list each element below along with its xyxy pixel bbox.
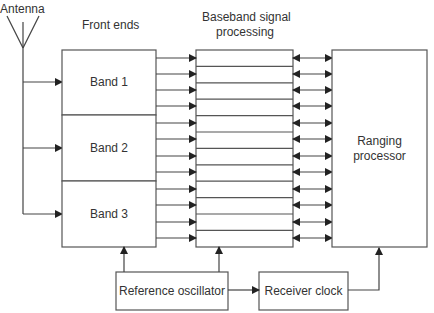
band-3-label: Band 3 xyxy=(62,181,156,247)
baseband-ranging-bidirectional-arrows xyxy=(293,58,332,238)
ranging-processor-label-line1: Ranging xyxy=(332,134,427,148)
band-1-label: Band 1 xyxy=(62,50,156,115)
frontend-to-baseband-arrows xyxy=(156,58,196,238)
antenna-feed-arrows xyxy=(23,82,62,214)
baseband-block xyxy=(196,50,293,247)
receiver-clock-label: Receiver clock xyxy=(259,272,348,310)
band-2-label: Band 2 xyxy=(62,115,156,181)
baseband-label-line1: Baseband signal xyxy=(202,10,291,24)
baseband-label-line2: processing xyxy=(216,25,274,39)
reference-oscillator-label: Reference oscillator xyxy=(116,272,228,310)
antenna-icon xyxy=(7,16,39,214)
antenna-label: Antenna xyxy=(0,2,45,16)
front-ends-label: Front ends xyxy=(82,18,139,32)
ranging-processor-label-line2: processor xyxy=(332,149,427,163)
